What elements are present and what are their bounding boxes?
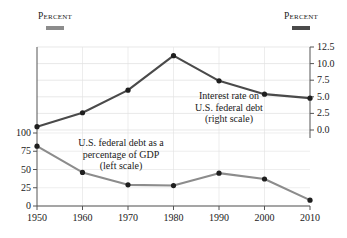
annotation-debt-line-1: U.S. federal debt as a	[60, 137, 182, 149]
x-axis-ticks	[37, 206, 310, 210]
x-tick-label: 1990	[197, 213, 241, 223]
x-tick-label: 1960	[61, 213, 105, 223]
right-tick-label: 7.5	[317, 75, 330, 85]
annotation-debt-line-3: (left scale)	[60, 160, 182, 172]
data-point	[80, 110, 85, 115]
right-tick-label: 10.0	[317, 59, 335, 69]
left-tick-label: 75	[0, 146, 31, 156]
vertical-gridlines	[83, 47, 265, 206]
data-point	[171, 183, 176, 188]
right-tick-label: 5.0	[317, 92, 330, 102]
x-tick-label: 2000	[243, 213, 287, 223]
right-tick-label: 12.5	[317, 42, 335, 52]
data-point	[34, 124, 39, 129]
annotation-interest-line-1: Interest rate on	[170, 90, 288, 102]
left-tick-label: 25	[0, 183, 31, 193]
right-axis-ticks	[310, 47, 314, 130]
data-point	[216, 171, 221, 176]
data-point	[262, 176, 267, 181]
left-tick-label: 50	[0, 165, 31, 175]
annotation-interest-line-3: (right scale)	[170, 113, 288, 125]
annotation-debt-gdp: U.S. federal debt as a percentage of GDP…	[60, 137, 182, 172]
x-tick-label: 1970	[106, 213, 150, 223]
annotation-debt-line-2: percentage of GDP	[60, 149, 182, 161]
left-tick-label: 0	[0, 201, 31, 211]
data-point	[216, 78, 221, 83]
chart-figure: Percent Percent 1007550250 12.510.07.55.…	[0, 0, 347, 238]
right-tick-label: 2.5	[317, 108, 330, 118]
right-tick-label: 0.0	[317, 125, 330, 135]
x-tick-label: 1950	[15, 213, 59, 223]
data-point	[125, 88, 130, 93]
data-point	[307, 198, 312, 203]
annotation-interest-line-2: U.S. federal debt	[170, 102, 288, 114]
data-point	[34, 144, 39, 149]
data-point	[125, 182, 130, 187]
annotation-interest-rate: Interest rate on U.S. federal debt (righ…	[170, 90, 288, 125]
left-tick-label: 100	[0, 128, 31, 138]
x-tick-label: 2010	[288, 213, 332, 223]
x-tick-label: 1980	[152, 213, 196, 223]
data-point	[307, 96, 312, 101]
data-point	[171, 53, 176, 58]
